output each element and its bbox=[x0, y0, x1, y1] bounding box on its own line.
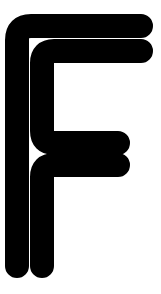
glyph-canvas: Letter F bbox=[0, 0, 161, 294]
letter-f-glyph: Letter F bbox=[0, 0, 161, 294]
